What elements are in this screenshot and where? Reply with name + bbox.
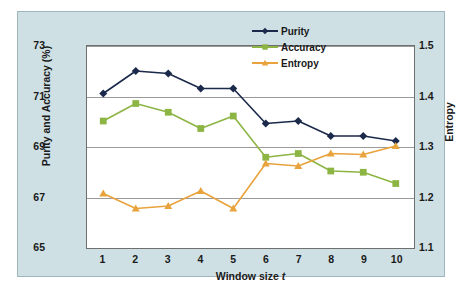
data-point-marker — [164, 70, 172, 78]
legend-item-entropy[interactable]: Entropy — [252, 56, 326, 70]
data-point-marker — [100, 118, 107, 125]
y-axis-left-tick-label: 67 — [33, 191, 45, 203]
legend-marker-icon — [261, 27, 269, 35]
legend-label: Entropy — [281, 58, 319, 69]
y-axis-left-tick-label: 69 — [33, 140, 45, 152]
x-axis-tick-label: 8 — [316, 253, 346, 265]
legend-marker-icon — [261, 59, 269, 67]
legend-label: Accuracy — [281, 42, 326, 53]
plot-area — [86, 45, 415, 249]
series-accuracy — [100, 100, 399, 187]
series-entropy — [99, 142, 399, 211]
x-axis-title-text: Window size — [216, 270, 282, 282]
x-axis-tick-label: 6 — [251, 253, 281, 265]
data-point-marker — [165, 109, 172, 116]
x-axis-title-variable: t — [282, 270, 286, 282]
data-point-marker — [230, 113, 237, 120]
legend-item-accuracy[interactable]: Accuracy — [252, 40, 326, 54]
data-point-marker — [99, 190, 107, 197]
y-axis-right-tick-label: 1.2 — [419, 191, 434, 203]
legend-swatch-triangle-icon — [252, 57, 278, 69]
y-axis-right-tick-label: 1.4 — [419, 90, 434, 102]
y-axis-left-tick-label: 71 — [33, 90, 45, 102]
x-axis-tick-label: 7 — [284, 253, 314, 265]
series-layer — [87, 46, 414, 248]
data-point-marker — [132, 100, 139, 107]
data-point-marker — [327, 132, 335, 140]
x-axis-tick-label: 3 — [153, 253, 183, 265]
data-point-marker — [197, 187, 205, 194]
series-line — [103, 146, 396, 209]
x-axis-tick-label: 2 — [120, 253, 150, 265]
data-point-marker — [197, 85, 205, 93]
data-point-marker — [197, 125, 204, 132]
data-point-marker — [327, 168, 334, 175]
legend-item-purity[interactable]: Purity — [252, 24, 326, 38]
data-point-marker — [392, 180, 399, 187]
x-axis-tick-label: 5 — [218, 253, 248, 265]
legend-swatch-diamond-icon — [252, 25, 278, 37]
x-axis-tick-label: 4 — [185, 253, 215, 265]
x-axis-tick-label: 10 — [382, 253, 412, 265]
x-axis-title: Window size t — [86, 270, 415, 282]
y-axis-left-tick-label: 65 — [33, 241, 45, 253]
x-axis-tick-label: 9 — [349, 253, 379, 265]
legend-swatch-square-icon — [252, 41, 278, 53]
legend-label: Purity — [281, 26, 309, 37]
x-axis-tick-label: 1 — [87, 253, 117, 265]
legend-marker-icon — [261, 43, 269, 51]
data-point-marker — [392, 142, 400, 149]
chart-panel: Purity and Accuracy (%) Entropy Window s… — [17, 11, 445, 277]
data-point-marker — [360, 169, 367, 176]
figure-container: Purity and Accuracy (%) Entropy Window s… — [0, 0, 462, 297]
series-line — [103, 104, 396, 184]
y-axis-right-tick-label: 1.1 — [419, 241, 434, 253]
legend: PurityAccuracyEntropy — [252, 24, 326, 72]
data-point-marker — [294, 117, 302, 125]
y-axis-right-tick-label: 1.3 — [419, 140, 434, 152]
y-axis-left-tick-label: 73 — [33, 39, 45, 51]
data-point-marker — [295, 150, 302, 157]
y-axis-right-title: Entropy — [443, 72, 455, 172]
y-axis-right-tick-label: 1.5 — [419, 39, 434, 51]
data-point-marker — [359, 132, 367, 140]
